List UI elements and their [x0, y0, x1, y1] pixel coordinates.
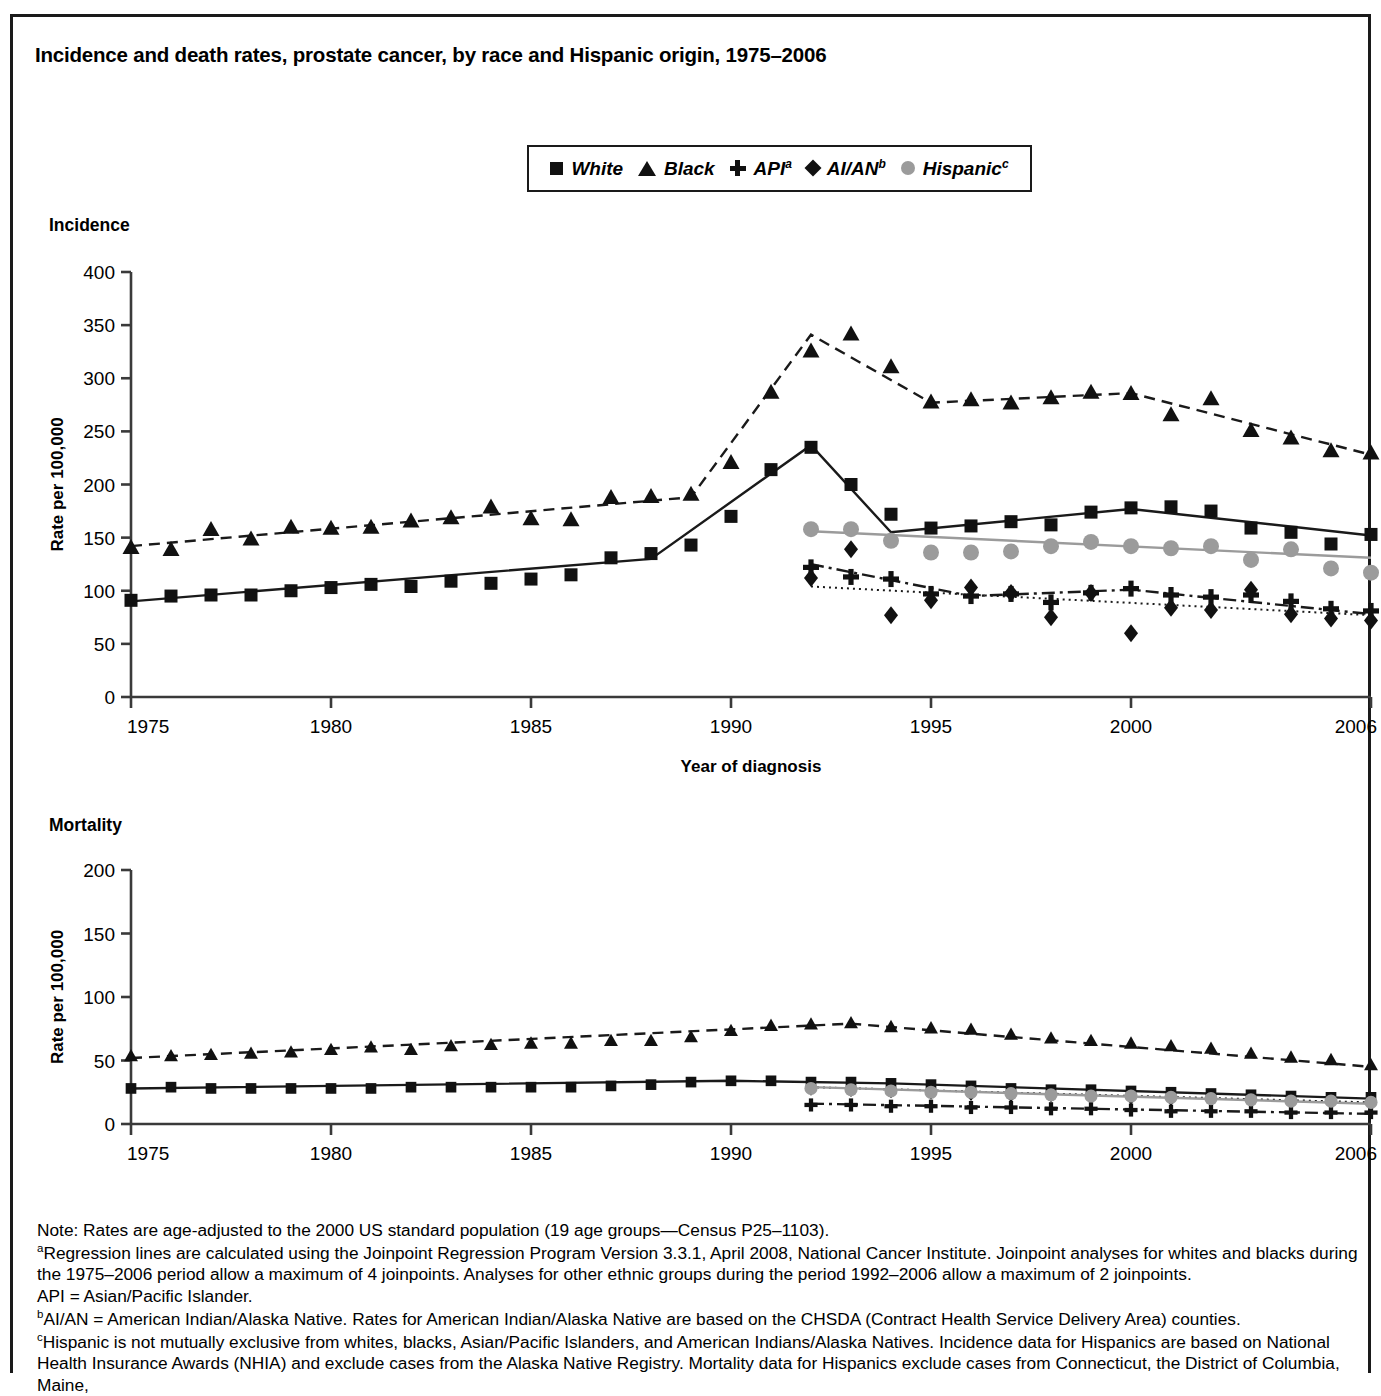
square-marker-icon: [550, 162, 563, 175]
circle-data-point: [843, 521, 859, 537]
footnote-note: Note: Rates are age-adjusted to the 2000…: [37, 1220, 1377, 1241]
circle-data-point: [924, 1086, 937, 1099]
mortality-panel-caption: Mortality: [49, 815, 122, 836]
circle-data-point: [1164, 1091, 1177, 1104]
plus-data-point: [884, 1100, 897, 1113]
square-data-point: [925, 522, 938, 535]
plus-data-point: [804, 1098, 817, 1111]
square-data-point: [485, 577, 498, 590]
square-data-point: [766, 1075, 777, 1086]
square-data-point: [566, 1082, 577, 1093]
incidence-panel-caption: Incidence: [49, 215, 130, 236]
square-data-point: [1325, 538, 1338, 551]
triangle-data-point: [1244, 1047, 1258, 1059]
square-data-point: [405, 580, 418, 593]
square-data-point: [526, 1082, 537, 1093]
square-data-point: [1365, 528, 1378, 541]
diamond-data-point: [1284, 605, 1298, 623]
circle-data-point: [1083, 534, 1099, 550]
legend-label: APIa: [754, 157, 792, 180]
y-tick-label: 400: [83, 262, 115, 283]
circle-data-point: [1043, 538, 1059, 554]
x-tick-label: 1980: [310, 716, 352, 737]
series-black: [124, 1016, 1378, 1070]
triangle-data-point: [444, 1039, 458, 1051]
square-data-point: [445, 575, 458, 588]
square-data-point: [645, 547, 658, 560]
plus-data-point: [1124, 1103, 1137, 1116]
triangle-data-point: [163, 541, 180, 556]
triangle-data-point: [1284, 1050, 1298, 1062]
trend-line-black: [131, 1024, 1371, 1067]
square-data-point: [366, 1083, 377, 1094]
triangle-data-point: [563, 511, 580, 526]
square-data-point: [1085, 506, 1098, 519]
triangle-marker-icon: [638, 161, 656, 176]
plus-marker-icon: [730, 160, 746, 176]
triangle-data-point: [1164, 1039, 1178, 1051]
y-tick-label: 100: [83, 987, 115, 1008]
y-axis-title: Rate per 100,000: [48, 930, 67, 1064]
square-data-point: [885, 508, 898, 521]
plus-data-point: [924, 1100, 937, 1113]
triangle-data-point: [523, 510, 540, 525]
x-axis-title: Year of diagnosis: [681, 757, 822, 776]
triangle-data-point: [284, 1045, 298, 1057]
triangle-data-point: [643, 488, 660, 503]
triangle-data-point: [1363, 444, 1380, 459]
plus-data-point: [1123, 581, 1139, 597]
square-data-point: [285, 584, 298, 597]
circle-data-point: [1044, 1088, 1057, 1101]
square-data-point: [725, 510, 738, 523]
circle-data-point: [1203, 538, 1219, 554]
square-data-point: [245, 589, 258, 602]
x-tick-label: 2006: [1335, 716, 1377, 737]
triangle-data-point: [1204, 1041, 1218, 1053]
circle-data-point: [1244, 1093, 1257, 1106]
triangle-data-point: [1323, 442, 1340, 457]
circle-data-point: [1323, 560, 1339, 576]
series-white: [125, 441, 1378, 607]
legend-superscript: c: [1002, 157, 1009, 171]
square-data-point: [165, 590, 178, 603]
x-tick-label: 2000: [1110, 716, 1152, 737]
y-tick-label: 0: [104, 1114, 115, 1135]
triangle-data-point: [1004, 1027, 1018, 1039]
plus-data-point: [1204, 1105, 1217, 1118]
circle-data-point: [1004, 1087, 1017, 1100]
diamond-data-point: [1324, 609, 1338, 627]
x-tick-label: 1995: [910, 716, 952, 737]
plus-data-point: [844, 1098, 857, 1111]
footnote-a: aRegression lines are calculated using t…: [37, 1241, 1377, 1285]
triangle-data-point: [203, 521, 220, 536]
plus-data-point: [1284, 1106, 1297, 1119]
square-data-point: [486, 1082, 497, 1093]
circle-data-point: [803, 521, 819, 537]
legend-item-api: APIa: [730, 157, 792, 180]
y-tick-label: 250: [83, 421, 115, 442]
triangle-data-point: [1003, 394, 1020, 409]
triangle-data-point: [964, 1022, 978, 1034]
triangle-data-point: [483, 499, 500, 514]
legend-item-white: White: [550, 158, 623, 180]
footnotes-block: Note: Rates are age-adjusted to the 2000…: [37, 1220, 1377, 1396]
triangle-data-point: [283, 519, 300, 534]
legend-label: White: [571, 158, 623, 180]
circle-data-point: [1204, 1092, 1217, 1105]
legend-item-black: Black: [638, 158, 715, 180]
square-data-point: [646, 1079, 657, 1090]
triangle-data-point: [1203, 390, 1220, 405]
footnote-c: cHispanic is not mutually exclusive from…: [37, 1330, 1377, 1396]
triangle-data-point: [403, 512, 420, 527]
triangle-data-point: [1364, 1058, 1378, 1070]
series-black: [123, 325, 1380, 556]
triangle-data-point: [763, 384, 780, 399]
legend-item-ai-an: AI/ANb: [807, 157, 886, 180]
legend-label: Hispanicc: [923, 157, 1009, 180]
footnote-b-text: AI/AN = American Indian/Alaska Native. R…: [43, 1309, 1240, 1329]
circle-data-point: [1124, 1090, 1137, 1103]
square-data-point: [726, 1075, 737, 1086]
square-data-point: [1245, 522, 1258, 535]
legend-label: AI/ANb: [827, 157, 886, 180]
footnote-a-text: Regression lines are calculated using th…: [37, 1243, 1358, 1284]
